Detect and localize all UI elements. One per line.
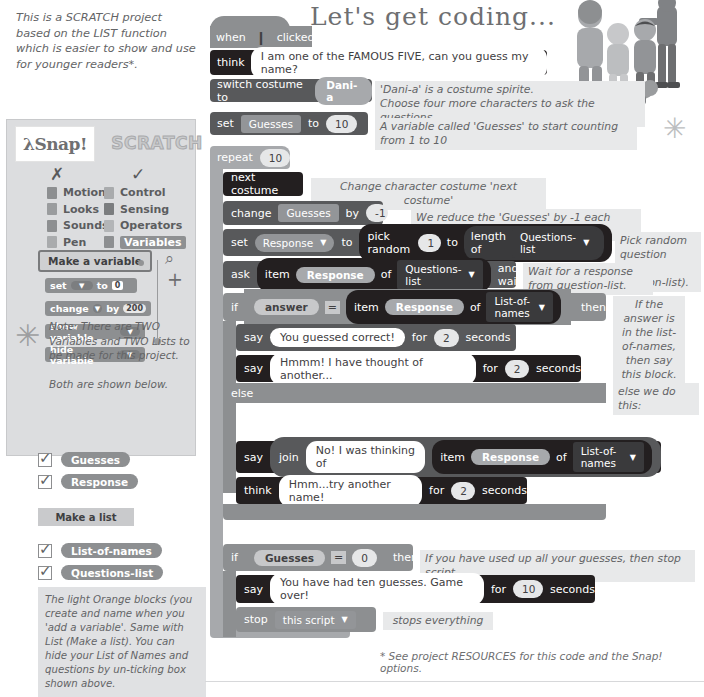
block-ask[interactable]: ask item Response of Questions-list ▼ an… (223, 261, 516, 288)
block-label: seconds (536, 362, 581, 375)
list-row-list-of-names[interactable]: List-of-names (38, 543, 162, 558)
variable-reporter-response[interactable]: Response (296, 267, 375, 283)
checkbox-icon[interactable] (38, 544, 52, 558)
value-field[interactable]: 200 (123, 304, 146, 313)
number-input[interactable]: 2 (434, 329, 459, 347)
variable-dropdown-slot[interactable]: ▼ (93, 304, 102, 313)
block-label: else (231, 387, 253, 400)
number-input[interactable]: 10 (513, 580, 543, 598)
palette-category-variables[interactable]: Variables (104, 236, 186, 249)
palette-category-sounds[interactable]: Sounds (47, 219, 109, 232)
block-label: seconds (482, 484, 527, 497)
palette-block-set[interactable]: set ▼ to 0 (45, 278, 137, 293)
block-if-answer[interactable]: if answer = item Response of List-of-nam… (223, 293, 606, 321)
reporter-item-of-list[interactable]: item Response of List-of-names ▼ (432, 440, 652, 474)
block-stop[interactable]: stop this script ▼ (236, 607, 376, 632)
variable-dropdown-guesses[interactable]: Guesses (241, 115, 301, 133)
think-text-input[interactable]: Hmm...try another name! (279, 475, 422, 507)
block-label: say (244, 451, 263, 464)
stop-target-dropdown[interactable]: this script ▼ (275, 611, 356, 629)
variable-dropdown-slot[interactable]: ▼ (71, 281, 93, 290)
palette-category-operators[interactable]: Operators (104, 219, 186, 232)
dropdown-value: this script (283, 614, 335, 626)
reporter-pick-random[interactable]: pick random 1 to length of Questions-lis… (359, 224, 612, 262)
palette-category-sensing[interactable]: Sensing (104, 203, 186, 216)
palette-category-label: Pen (63, 236, 86, 249)
palette-category-looks[interactable]: Looks (47, 203, 109, 216)
block-say-another[interactable]: say Hmmm! I have thought of another... f… (236, 355, 581, 382)
reporter-item-of-list[interactable]: item Response of Questions-list ▼ (257, 258, 491, 292)
block-label: think (217, 56, 245, 69)
sounds-swatch-icon (47, 220, 57, 232)
block-think-2[interactable]: think Hmm...try another name! for 2 seco… (236, 477, 527, 504)
checkbox-icon[interactable] (38, 566, 52, 580)
repeat-c-arm (210, 169, 223, 624)
block-set-response[interactable]: set Response ▼ to pick random 1 to lengt… (223, 229, 605, 256)
variable-dropdown-response[interactable]: Response ▼ (255, 234, 335, 252)
search-icon[interactable]: ⌕ (165, 249, 174, 268)
annotation-else: else we do this: (613, 383, 699, 415)
make-a-variable-button[interactable]: Make a variable (38, 250, 152, 272)
variable-row-guesses[interactable]: Guesses (38, 452, 130, 467)
value-field[interactable]: 0 (112, 281, 124, 290)
block-switch-costume[interactable]: switch costume to Dani-a (210, 79, 372, 102)
motion-swatch-icon (47, 187, 57, 199)
say-text-input[interactable]: You guessed correct! (270, 328, 405, 347)
checkbox-icon[interactable] (38, 475, 52, 489)
chevron-down-icon: ▼ (469, 270, 475, 279)
number-input[interactable]: 2 (451, 482, 475, 500)
think-text-input[interactable]: I am one of the FAMOUS FIVE, can you gue… (251, 47, 547, 79)
list-row-questions-list[interactable]: Questions-list (38, 565, 163, 580)
say-text-input[interactable]: Hmmm! I have thought of another... (270, 353, 476, 385)
number-input[interactable]: 0 (352, 549, 377, 567)
block-label: repeat (217, 151, 253, 164)
number-input[interactable]: 10 (260, 149, 290, 167)
number-input[interactable]: 1 (418, 234, 440, 252)
palette-block-change[interactable]: change ▼ by 200 (45, 301, 151, 316)
make-a-list-button[interactable]: Make a list (38, 508, 134, 526)
number-input[interactable]: 2 (505, 360, 529, 378)
list-dropdown-questions[interactable]: Questions-list ▼ (512, 228, 597, 258)
costume-dropdown[interactable]: Dani-a (315, 77, 372, 105)
palette-category-pen[interactable]: Pen (47, 236, 109, 249)
variable-reporter-guesses[interactable]: Guesses (254, 550, 325, 566)
palette-categories-right: Control Sensing Operators Variables (104, 186, 186, 252)
palette-category-control[interactable]: Control (104, 186, 186, 199)
list-dropdown-names[interactable]: List-of-names ▼ (573, 442, 644, 472)
block-set-guesses[interactable]: set Guesses to 10 (210, 112, 368, 135)
predicate-equals[interactable]: Guesses = 0 (245, 548, 386, 568)
join-text-input[interactable]: No! I was thinking of (306, 441, 425, 473)
variable-row-response[interactable]: Response (38, 474, 138, 489)
block-else[interactable]: else (223, 383, 606, 403)
palette-categories-left: Motion Looks Sounds Pen (47, 186, 109, 252)
block-label: join (279, 451, 299, 464)
list-dropdown-questions[interactable]: Questions-list ▼ (397, 260, 482, 290)
block-say-correct[interactable]: say You guessed correct! for 2 seconds (236, 324, 516, 351)
block-next-costume[interactable]: next costume (223, 172, 303, 196)
variable-dropdown-guesses[interactable]: Guesses (278, 204, 338, 222)
block-change-guesses[interactable]: change Guesses by -1 (223, 201, 383, 225)
number-input[interactable]: 10 (326, 115, 357, 133)
block-say-game-over[interactable]: say You have had ten guesses. Game over!… (236, 575, 595, 603)
variable-reporter-response[interactable]: Response (471, 449, 550, 465)
list-dropdown-names[interactable]: List-of-names ▼ (486, 292, 552, 322)
answer-reporter[interactable]: answer (254, 299, 319, 315)
say-text-input[interactable]: You have had ten guesses. Game over! (270, 573, 484, 605)
variable-reporter-response[interactable]: Response (385, 299, 464, 315)
reporter-join[interactable]: join No! I was thinking of item Response… (270, 437, 661, 477)
reporter-item-of-list[interactable]: item Response of List-of-names ▼ (346, 290, 561, 324)
palette-category-motion[interactable]: Motion (47, 186, 109, 199)
checkbox-icon[interactable] (38, 453, 52, 467)
block-repeat[interactable]: repeat 10 (210, 146, 290, 169)
block-label: say (244, 583, 263, 596)
chevron-down-icon: ▼ (342, 615, 348, 624)
block-when-flag-clicked[interactable]: when ❙ clicked (210, 26, 312, 48)
number-input[interactable]: -1 (366, 204, 388, 222)
block-if-guesses-zero[interactable]: if Guesses = 0 then (223, 544, 413, 571)
reporter-length-of[interactable]: length of Questions-list ▼ (464, 226, 604, 260)
variables-note: Note: There are TWO Variables and TWO Li… (49, 319, 191, 392)
block-say-join[interactable]: say join No! I was thinking of item Resp… (236, 441, 661, 473)
block-think-1[interactable]: think I am one of the FAMOUS FIVE, can y… (210, 50, 547, 75)
predicate-equals[interactable]: answer = item Response of List-of-names … (244, 289, 571, 325)
plus-icon[interactable]: + (167, 268, 183, 290)
